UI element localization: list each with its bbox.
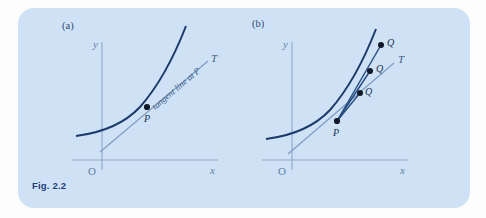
panel-b-point-q3-label: Q <box>387 37 395 48</box>
panel-b-label: (b) <box>252 18 264 29</box>
panel-a-point-p-label: P <box>143 113 150 124</box>
panel-b-secant-line-3 <box>337 45 381 121</box>
panel-b-x-axis-label: x <box>399 164 405 176</box>
panel-a-x-axis-label: x <box>209 164 215 176</box>
figure-graphics: y x O P tangent line at P T y x <box>0 0 486 218</box>
panel-b-point-p-label: P <box>332 127 339 138</box>
panel-a-origin-label: O <box>88 165 96 177</box>
panel-b-point-q3-marker <box>378 42 384 48</box>
figure-caption: Fig. 2.2 <box>32 180 66 191</box>
panel-a-point-p-marker <box>144 104 150 110</box>
panel-b-point-p-marker <box>334 118 340 124</box>
panel-a-label: (a) <box>62 20 74 31</box>
panel-a-tangent-annotation: tangent line at P <box>150 65 203 111</box>
panel-b-point-q1-marker <box>357 90 363 96</box>
panel-b-tangent-line <box>288 63 394 154</box>
panel-b-graphics <box>262 29 408 170</box>
panel-a-tangent-endpoint-label: T <box>211 52 218 64</box>
panel-b-origin-label: O <box>278 165 286 177</box>
panel-b-point-q2-label: Q <box>376 63 384 74</box>
panel-a-y-axis-label: y <box>92 38 98 50</box>
panel-b-tangent-endpoint-label: T <box>398 53 405 65</box>
figure-root: y x O P tangent line at P T y x <box>0 0 486 218</box>
panel-b-point-q2-marker <box>367 68 373 74</box>
panel-b-point-q1-label: Q <box>365 86 373 97</box>
panel-b-y-axis-label: y <box>282 38 288 50</box>
